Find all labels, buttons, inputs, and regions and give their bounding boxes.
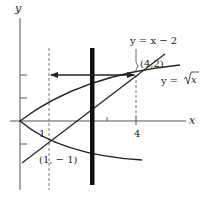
line-label: y = x − 2: [129, 35, 177, 46]
y-axis-label: y: [14, 2, 22, 15]
region-diagram: y x 1 4 y = x − 2 (4,2) y = x (1, − 1): [0, 0, 208, 202]
sqrt-label-radicand: x: [191, 74, 197, 85]
point-label-lower: (1, − 1): [39, 154, 78, 165]
thick-vertical-strip: [90, 48, 95, 185]
x-axis-label: x: [189, 114, 196, 127]
sqrt-label-prefix: y =: [160, 75, 178, 86]
leader-line-icon: [135, 49, 138, 72]
tick-label-1: 1: [39, 128, 45, 139]
sqrt-label: y = x: [160, 72, 199, 86]
tick-label-4: 4: [134, 128, 140, 139]
point-label-upper: (4,2): [140, 58, 164, 69]
